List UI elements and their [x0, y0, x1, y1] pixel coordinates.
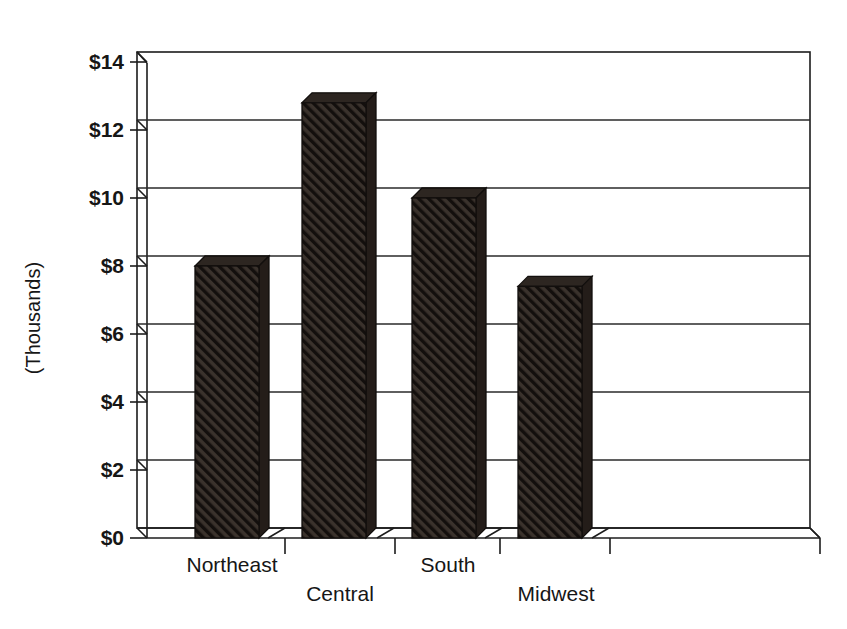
bar-front-face	[412, 198, 476, 538]
bar-column	[518, 276, 592, 538]
y-tick-depth-connector	[137, 120, 147, 130]
x-category-label: South	[421, 553, 476, 576]
bar-front-face	[195, 266, 259, 538]
bar-top-face	[412, 188, 486, 198]
y-tick-label: $14	[89, 50, 124, 73]
y-tick-label: $8	[101, 254, 125, 277]
y-axis-title: (Thousands)	[22, 262, 44, 374]
bar-side-face	[366, 93, 376, 538]
bar-side-face	[259, 256, 269, 538]
bar-top-face	[302, 93, 376, 103]
floor-depth-connector	[377, 528, 394, 538]
y-tick-depth-connector	[137, 188, 147, 198]
bar-top-face	[518, 276, 592, 286]
bar-column	[195, 256, 269, 538]
x-category-label: Central	[306, 582, 374, 605]
bar-side-face	[476, 188, 486, 538]
bar-side-face	[582, 276, 592, 538]
y-tick-label: $4	[101, 390, 125, 413]
floor-depth-connector	[268, 528, 285, 538]
bar-front-face	[518, 286, 582, 538]
x-category-label: Northeast	[186, 553, 277, 576]
y-tick-depth-connector	[137, 324, 147, 334]
y-tick-label: $2	[101, 458, 124, 481]
y-tick-label: $10	[89, 186, 124, 209]
y-tick-depth-connector	[137, 52, 147, 62]
bar-front-face	[302, 103, 366, 538]
y-tick-depth-connector	[137, 460, 147, 470]
floor-depth-connector	[592, 528, 609, 538]
depth-edge-bottom-left	[137, 528, 147, 538]
x-axis-category-labels: NortheastCentralSouthMidwest	[186, 553, 594, 605]
bar-chart-figure: $0$2$4$6$8$10$12$14 NortheastCentralSout…	[0, 0, 847, 629]
y-tick-label: $0	[101, 526, 124, 549]
y-axis-ticks: $0$2$4$6$8$10$12$14	[89, 50, 147, 549]
y-tick-depth-connector	[137, 256, 147, 266]
bar-series	[195, 93, 592, 538]
x-category-label: Midwest	[517, 582, 594, 605]
bar-column	[412, 188, 486, 538]
floor-depth-connector	[485, 528, 502, 538]
y-tick-label: $12	[89, 118, 124, 141]
y-tick-depth-connector	[137, 392, 147, 402]
chart-canvas: $0$2$4$6$8$10$12$14 NortheastCentralSout…	[0, 0, 847, 629]
bar-top-face	[195, 256, 269, 266]
bar-column	[302, 93, 376, 538]
floor-depth-connector-right	[810, 528, 820, 538]
y-tick-label: $6	[101, 322, 124, 345]
